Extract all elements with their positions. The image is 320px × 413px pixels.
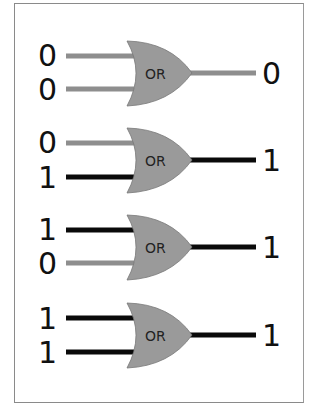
gate-4-input-b: 1 bbox=[38, 338, 57, 368]
gate-4-input-a: 1 bbox=[38, 304, 57, 334]
svg-text:OR: OR bbox=[145, 240, 166, 256]
gate-1-input-b: 0 bbox=[38, 75, 57, 105]
gate-2-output: 1 bbox=[262, 146, 281, 176]
or-gate-row-3: OR bbox=[66, 215, 256, 280]
gate-4-output: 1 bbox=[262, 321, 281, 351]
gate-2-input-b: 1 bbox=[38, 163, 57, 193]
gate-1-output: 0 bbox=[262, 59, 281, 89]
gate-3-input-b: 0 bbox=[38, 249, 57, 279]
or-gate-row-4: OR bbox=[66, 303, 256, 368]
or-gate-row-1: OR bbox=[66, 41, 256, 106]
svg-text:OR: OR bbox=[145, 328, 166, 344]
gate-2-input-a: 0 bbox=[38, 128, 57, 158]
gate-1-input-a: 0 bbox=[38, 41, 57, 71]
gate-3-input-a: 1 bbox=[38, 215, 57, 245]
or-gate-row-2: OR bbox=[66, 128, 256, 193]
svg-text:OR: OR bbox=[145, 153, 166, 169]
gate-label: OR bbox=[145, 66, 166, 82]
gate-3-output: 1 bbox=[262, 233, 281, 263]
